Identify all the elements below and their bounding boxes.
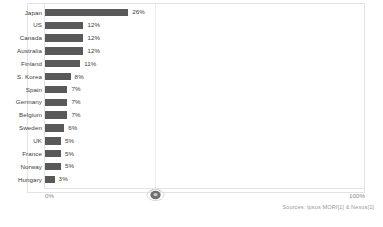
bar-fill[interactable] (45, 150, 61, 157)
bar-value-label: 7% (71, 109, 80, 121)
bar-value-label: 11% (84, 58, 96, 70)
bar-category-label: France (0, 148, 42, 160)
bar-fill[interactable] (45, 163, 61, 170)
bar-category-label: Finland (0, 58, 42, 70)
bar-row: S. Korea8% (0, 71, 383, 83)
bar-track: 7% (45, 86, 365, 93)
bar-category-label: UK (0, 135, 42, 147)
bar-track: 7% (45, 99, 365, 106)
bar-category-label: Sweden (0, 122, 42, 134)
bar-category-label: Germany (0, 96, 42, 108)
bar-fill[interactable] (45, 137, 61, 144)
bar-track: 12% (45, 47, 365, 54)
bar-row: Finland11% (0, 58, 383, 70)
bar-track: 11% (45, 60, 365, 67)
bar-track: 6% (45, 124, 365, 131)
chart-plot-area: Japan26%US12%Canada12%Australia12%Finlan… (0, 0, 383, 194)
source-citation: Sources: Ipsos MORI[1] & Nexus[1] (282, 204, 374, 210)
bar-row: Sweden6% (0, 122, 383, 134)
axis-tick-min: 0% (45, 192, 54, 199)
bar-value-label: 12% (87, 32, 100, 44)
bar-category-label: S. Korea (0, 71, 42, 83)
bar-value-label: 8% (75, 71, 84, 83)
bar-value-label: 12% (87, 19, 100, 31)
bar-fill[interactable] (45, 124, 64, 131)
bar-row: Australia12% (0, 45, 383, 57)
bar-row: US12% (0, 19, 383, 31)
bar-value-label: 26% (132, 6, 145, 18)
bar-track: 26% (45, 9, 365, 16)
axis-baseline (44, 188, 365, 189)
bar-row: France5% (0, 148, 383, 160)
bar-value-label: 5% (65, 160, 74, 172)
bar-category-label: Canada (0, 32, 42, 44)
bar-track: 5% (45, 137, 365, 144)
bar-fill[interactable] (45, 86, 67, 93)
bar-track: 7% (45, 111, 365, 118)
bar-row: Canada12% (0, 32, 383, 44)
bar-fill[interactable] (45, 99, 67, 106)
bar-category-label: Hungary (0, 174, 42, 186)
bar-fill[interactable] (45, 73, 71, 80)
bar-fill[interactable] (45, 22, 83, 29)
bar-track: 12% (45, 22, 365, 29)
bar-track: 12% (45, 34, 365, 41)
bar-row: Japan26% (0, 7, 383, 19)
bar-row: Spain7% (0, 84, 383, 96)
bar-value-label: 12% (87, 45, 100, 57)
bar-row: Germany7% (0, 96, 383, 108)
bar-category-label: US (0, 19, 42, 31)
bar-row: UK5% (0, 135, 383, 147)
bar-track: 3% (45, 176, 365, 183)
bar-value-label: 6% (68, 122, 77, 134)
bar-row: Belgium7% (0, 109, 383, 121)
bar-fill[interactable] (45, 176, 55, 183)
bar-category-label: Belgium (0, 109, 42, 121)
bar-track: 5% (45, 150, 365, 157)
bar-category-label: Australia (0, 45, 42, 57)
bar-track: 5% (45, 163, 365, 170)
bar-fill[interactable] (45, 60, 80, 67)
bar-value-label: 5% (65, 148, 74, 160)
bar-category-label: Spain (0, 84, 42, 96)
bar-value-label: 3% (59, 173, 68, 185)
bar-fill[interactable] (45, 111, 67, 118)
bar-row: Norway5% (0, 161, 383, 173)
bar-category-label: Japan (0, 7, 42, 19)
bar-value-label: 7% (71, 83, 80, 95)
bar-category-label: Norway (0, 161, 42, 173)
bar-fill[interactable] (45, 9, 128, 16)
bar-track: 8% (45, 73, 365, 80)
axis-tick-max: 100% (349, 192, 365, 199)
bar-fill[interactable] (45, 47, 83, 54)
cursor-marker-icon[interactable] (146, 188, 165, 202)
bar-row: Hungary3% (0, 174, 383, 186)
bar-value-label: 5% (65, 135, 74, 147)
bar-value-label: 7% (71, 96, 80, 108)
bar-fill[interactable] (45, 34, 83, 41)
